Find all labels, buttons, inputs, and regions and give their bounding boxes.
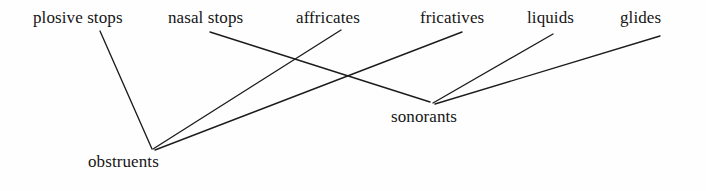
consonant-classification-diagram: plosive stops nasal stops affricates fri… [0, 0, 706, 191]
node-label-glides: glides [620, 8, 661, 27]
node-label-fricatives: fricatives [420, 8, 484, 27]
edge-glides-sonorants [435, 36, 660, 104]
edge-liquids-sonorants [433, 34, 553, 103]
node-label-affricates: affricates [296, 8, 360, 27]
node-label-nasal-stops: nasal stops [168, 8, 243, 27]
node-label-liquids: liquids [527, 8, 574, 27]
node-label-obstruents: obstruents [88, 152, 159, 171]
edge-plosive-stops-obstruents [100, 31, 152, 149]
edge-fricatives-obstruents [155, 32, 462, 150]
node-label-plosive-stops: plosive stops [33, 8, 123, 27]
node-label-sonorants: sonorants [391, 107, 457, 126]
